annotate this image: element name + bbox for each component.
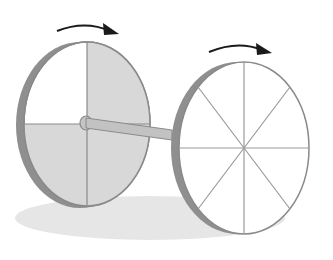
- right-wheel: [171, 62, 309, 234]
- left-rotation-arrow-icon: [57, 23, 119, 35]
- wheels-axle-diagram: [0, 0, 333, 260]
- right-rotation-arrow-icon: [209, 43, 272, 55]
- shaded-quadrant-top-right: [87, 40, 157, 124]
- spokes: [179, 62, 309, 234]
